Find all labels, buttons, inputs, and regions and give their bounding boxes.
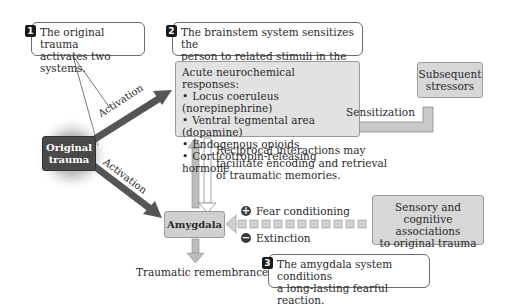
extinction-label: Extinction [256, 232, 310, 244]
plus-icon: + [241, 206, 251, 216]
callout-1-line-1: The original trauma [40, 26, 138, 50]
amygdala-box: Amygdala [164, 211, 225, 238]
callout-2: 2 The brainstem system sensitizes the pe… [172, 22, 363, 56]
subsequent-stressors-box: Subsequent stressors [417, 62, 483, 98]
acute-responses-box: Acute neurochemical responses: Locus coe… [175, 61, 360, 137]
minus-icon: − [241, 233, 251, 243]
step-number-2: 2 [166, 25, 177, 37]
traumatic-remembrance-label: Traumatic remembrance [136, 266, 268, 278]
original-trauma-line-2: trauma [43, 154, 95, 166]
callout-3-line-1: The amygdala system conditions [277, 258, 423, 282]
original-trauma-box: Original trauma [42, 136, 96, 171]
fear-conditioning-label: Fear conditioning [256, 205, 350, 217]
sensitization-label: Sensitization [346, 106, 415, 118]
remembrance-arrow [187, 239, 204, 263]
step-number-1: 1 [25, 25, 36, 37]
original-trauma-line-1: Original [43, 142, 95, 154]
acute-responses-title: Acute neurochemical responses: [182, 66, 353, 90]
reciprocal-interactions-note: Reciprocal interactions may facilitate e… [216, 144, 387, 182]
acute-response-item: Ventral tegmental area (dopamine) [182, 114, 353, 138]
sensory-associations-box: Sensory and cognitive associations to or… [372, 195, 484, 245]
subsequent-stressors-line-1: Subsequent [418, 68, 482, 80]
reciprocal-line-2: facilitate encoding and retrieval [216, 157, 387, 170]
subsequent-stressors-line-2: stressors [418, 80, 482, 92]
acute-response-item: Locus coeruleus (norepinephrine) [182, 90, 353, 114]
reciprocal-line-1: Reciprocal interactions may [216, 144, 387, 157]
sensory-line-2: cognitive associations [373, 213, 483, 237]
callout-1: 1 The original trauma activates two syst… [31, 22, 145, 56]
callout-3: 3 The amygdala system conditions a long-… [268, 254, 430, 288]
amygdala-label: Amygdala [167, 219, 222, 230]
callout-1-line-2: activates two systems. [40, 50, 138, 74]
callout-3-line-2: a long-lasting fearful reaction. [277, 282, 423, 306]
sensory-line-1: Sensory and [373, 201, 483, 213]
callout-2-line-1: The brainstem system sensitizes the [181, 26, 356, 50]
step-number-3: 3 [262, 257, 273, 269]
reciprocal-line-3: of traumatic memories. [216, 169, 387, 182]
conditioning-dashed-arrow [226, 215, 366, 233]
sensory-line-3: to original trauma [373, 237, 483, 249]
